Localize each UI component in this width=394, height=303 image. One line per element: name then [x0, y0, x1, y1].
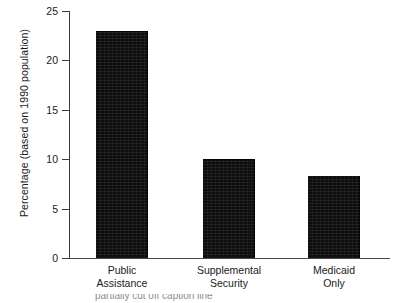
- y-tick-label-20: 20: [12, 55, 58, 65]
- figure-caption-text: partially cut off caption line: [95, 294, 213, 302]
- x-label-3-line-1: Medicaid: [274, 264, 394, 277]
- y-tick-label-wrap-5: 5: [0, 204, 58, 214]
- bar-texture: [308, 176, 360, 258]
- y-tick-label-0: 0: [12, 253, 58, 263]
- y-tick-label-15: 15: [12, 105, 58, 115]
- y-tick-25: [62, 11, 69, 12]
- bar-texture: [203, 159, 255, 258]
- figure-caption-clipped: partially cut off caption line: [0, 294, 394, 303]
- y-tick-15: [62, 110, 69, 111]
- bar-texture: [96, 31, 148, 258]
- y-tick-label-25: 25: [12, 6, 58, 16]
- y-tick-label-wrap-25: 25: [0, 6, 58, 16]
- bar-3[interactable]: [308, 176, 360, 258]
- x-label-3-line-2: Only: [274, 277, 394, 290]
- x-label-2-line-2: Security: [169, 277, 289, 290]
- x-label-2: SupplementalSecurity: [169, 264, 289, 290]
- x-label-1-line-1: Public: [62, 264, 182, 277]
- x-label-1: PublicAssistance: [62, 264, 182, 290]
- x-label-1-line-2: Assistance: [62, 277, 182, 290]
- y-axis-title: Percentage (based on 1990 population): [16, 0, 32, 252]
- x-axis-line: [62, 258, 390, 259]
- y-tick-0: [62, 258, 69, 259]
- bar-2[interactable]: [203, 159, 255, 258]
- x-label-2-line-1: Supplemental: [169, 264, 289, 277]
- y-tick-label-wrap-20: 20: [0, 55, 58, 65]
- y-tick-10: [62, 159, 69, 160]
- y-tick-label-wrap-10: 10: [0, 154, 58, 164]
- y-tick-label-wrap-0: 0: [0, 253, 58, 263]
- y-tick-5: [62, 209, 69, 210]
- y-tick-label-10: 10: [12, 154, 58, 164]
- y-tick-20: [62, 60, 69, 61]
- bar-1[interactable]: [96, 31, 148, 258]
- x-label-3: MedicaidOnly: [274, 264, 394, 290]
- plot-area: [69, 11, 390, 258]
- y-tick-label-wrap-15: 15: [0, 105, 58, 115]
- y-tick-label-5: 5: [12, 204, 58, 214]
- bar-chart-figure: Percentage (based on 1990 population) 05…: [0, 0, 394, 303]
